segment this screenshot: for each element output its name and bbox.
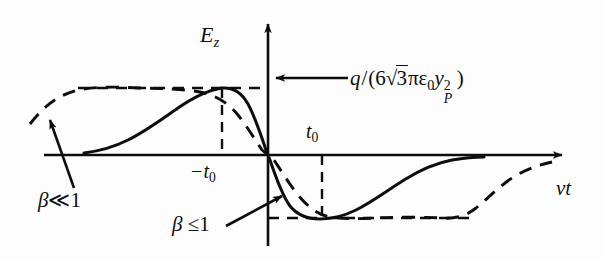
- less-than-or-equal-icon: ≤: [188, 212, 200, 236]
- y-axis-label-base: E: [200, 22, 213, 47]
- beta-much-less-than-one-label: β≪1: [38, 188, 81, 213]
- beta-less-equal-one-label: β ≤1: [172, 212, 210, 237]
- y-axis-label-subscript: z: [213, 34, 219, 50]
- amplitude-formula-label: q/(6√3πε0y2P): [350, 66, 464, 94]
- figure-container: Ez νt −t0 t0 q/(6√3πε0y2P) β≪1 β ≤1: [0, 0, 602, 259]
- x-axis-label-nu: ν: [556, 176, 565, 200]
- curve-beta-less-equal-one: [84, 88, 484, 219]
- formula-y-subscript: P: [444, 91, 452, 107]
- formula-y-symbol: y: [434, 66, 443, 90]
- formula-coefficient: 6: [375, 66, 386, 90]
- formula-epsilon: ε: [418, 66, 427, 90]
- droplines: [222, 88, 322, 218]
- formula-close-paren: ): [457, 66, 464, 90]
- axis-group: [44, 24, 562, 246]
- formula-radicand: 3: [396, 65, 408, 90]
- plot-canvas: [0, 0, 602, 259]
- x-axis-label-t: t: [565, 176, 571, 200]
- tick-label-negative-t0: −t0: [190, 160, 216, 186]
- tick-t0-subscript: 0: [312, 130, 319, 145]
- beta-symbol: β: [172, 212, 182, 236]
- tick-negative-t0-subscript: 0: [209, 170, 216, 185]
- much-less-than-icon: ≪: [48, 188, 70, 212]
- formula-numerator: q: [350, 66, 361, 90]
- tick-label-t0: t0: [306, 120, 318, 146]
- tick-negative-t0-base: −t: [190, 160, 209, 182]
- beta-small-value: 1: [70, 188, 81, 212]
- beta-less-equal-arrow: [226, 196, 282, 226]
- y-axis-label: Ez: [200, 22, 219, 51]
- beta-near-one-value: 1: [199, 212, 210, 236]
- beta-symbol: β: [38, 188, 48, 212]
- reference-levels: [78, 88, 470, 218]
- curve-beta-much-less-than-one: [30, 87, 552, 219]
- formula-pi: π: [408, 66, 419, 90]
- x-axis-label: νt: [556, 176, 571, 201]
